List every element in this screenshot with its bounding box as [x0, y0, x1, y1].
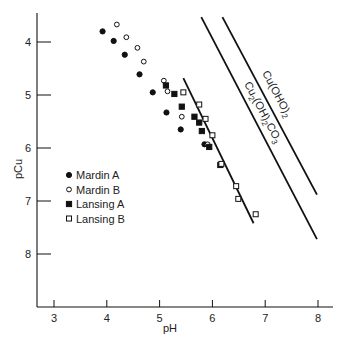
chart-container: 345678 45678 pH pCu Cu(OHO)2 Cu2(OH)2CO3… [0, 0, 341, 343]
data-point [141, 59, 146, 64]
data-point [207, 144, 212, 149]
x-tick-label: 6 [209, 312, 215, 324]
y-tick-label: 8 [25, 248, 31, 260]
reference-line [201, 17, 317, 239]
reference-line [222, 17, 317, 195]
data-point [164, 110, 169, 115]
y-axis-ticks: 45678 [25, 36, 51, 260]
data-point [150, 90, 155, 95]
axes [37, 13, 333, 307]
x-tick-label: 5 [157, 312, 163, 324]
data-point [178, 127, 183, 132]
reference-line [183, 78, 253, 223]
data-point [165, 89, 170, 94]
data-point [203, 116, 208, 121]
x-tick-label: 4 [104, 312, 110, 324]
data-point [179, 104, 184, 109]
y-axis-label: pCu [12, 159, 24, 179]
x-axis-ticks: 345678 [51, 300, 321, 324]
data-point [122, 52, 127, 57]
data-point [210, 133, 215, 138]
data-point [114, 22, 119, 27]
data-point [179, 114, 184, 119]
legend-label: Lansing A [76, 198, 125, 210]
data-point [192, 114, 197, 119]
legend-label: Mardin B [76, 184, 120, 196]
y-tick-label: 6 [25, 142, 31, 154]
data-point [199, 128, 204, 133]
data-point [111, 38, 116, 43]
data-point [236, 196, 241, 201]
legend-marker-icon [66, 201, 71, 206]
x-axis-label: pH [163, 322, 177, 334]
x-tick-label: 3 [51, 312, 57, 324]
cuoh2-label-sub: 2 [279, 112, 289, 121]
data-point [172, 91, 177, 96]
data-point [181, 90, 186, 95]
legend-marker-icon [66, 172, 71, 177]
data-point [163, 83, 168, 88]
data-point [219, 161, 224, 166]
legend-marker-icon [67, 216, 72, 221]
legend-label: Lansing B [76, 213, 125, 225]
data-point [197, 102, 202, 107]
y-tick-label: 7 [25, 195, 31, 207]
legend: Mardin AMardin BLansing ALansing B [66, 169, 125, 225]
scatter-plot: 345678 45678 pH pCu Cu(OHO)2 Cu2(OH)2CO3… [0, 0, 341, 343]
data-point [135, 45, 140, 50]
data-point [197, 120, 202, 125]
data-point [137, 72, 142, 77]
data-points [100, 22, 258, 217]
y-tick-label: 5 [25, 89, 31, 101]
x-tick-label: 8 [315, 312, 321, 324]
legend-marker-icon [67, 187, 72, 192]
carb-label-sub3: 3 [269, 138, 279, 147]
data-point [234, 184, 239, 189]
y-tick-label: 4 [25, 36, 31, 48]
data-point [100, 29, 105, 34]
data-point [253, 212, 258, 217]
x-tick-label: 7 [262, 312, 268, 324]
data-point [124, 35, 129, 40]
legend-label: Mardin A [76, 169, 120, 181]
